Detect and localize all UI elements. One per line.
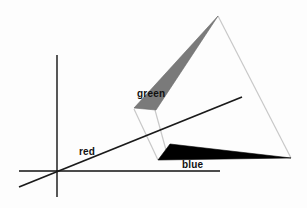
projection-line-left	[134, 109, 158, 160]
red-line	[19, 97, 242, 187]
projection-line-right	[218, 16, 291, 158]
diagram-svg	[0, 0, 307, 208]
blue-triangle	[158, 144, 291, 160]
blue-label: blue	[182, 160, 203, 170]
green-label: green	[137, 89, 165, 99]
red-label: red	[79, 147, 95, 157]
vector-diagram: green red blue	[0, 0, 307, 208]
